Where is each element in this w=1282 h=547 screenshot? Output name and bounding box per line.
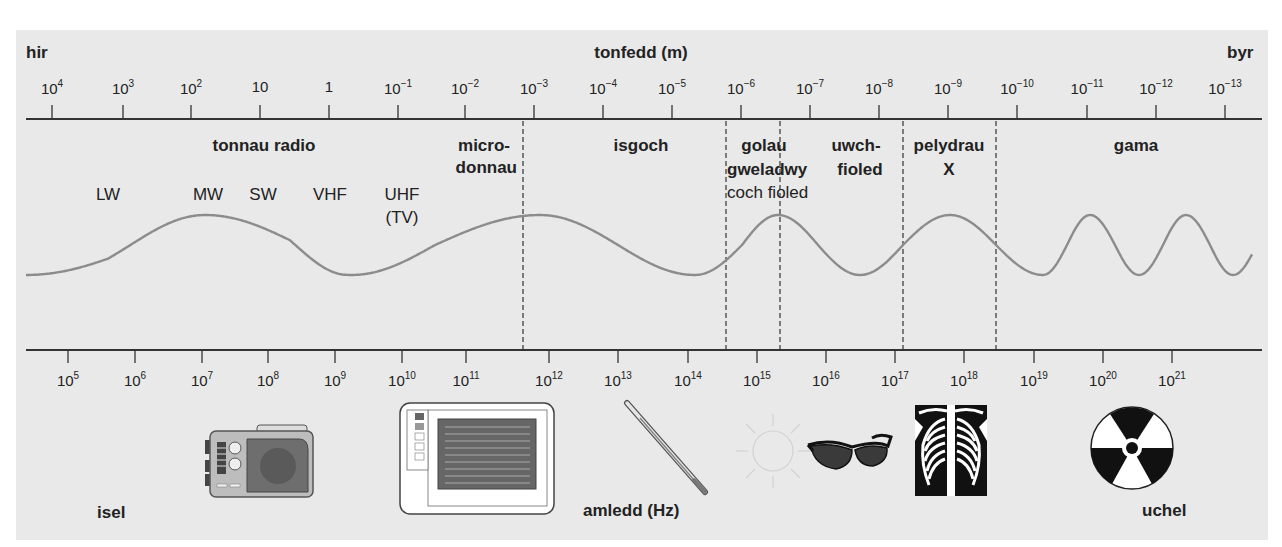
chest-x-ray-icon [915,405,987,496]
region-xray-line2: X [943,160,954,180]
radiation-symbol-icon [1091,407,1173,489]
visible-range-label: coch fioled [727,183,808,203]
frequency-tick-marks [68,350,1172,363]
wavelength-tick-marks [52,105,1225,119]
radio-icon [205,425,313,497]
microwave-oven-icon [400,403,554,514]
region-infrared-label: isgoch [614,136,669,156]
sun-icon [736,414,810,488]
band-uhf-tv: (TV) [385,208,418,228]
em-wave [26,215,1252,275]
band-sw: SW [249,185,276,205]
spectrum-graphics [0,0,1282,547]
frequency-low-label: isel [97,503,125,523]
microwave-line1: micro- [451,136,517,156]
region-xray-line1: pelydrau [914,136,985,156]
microwave-line2: donnau [451,158,517,178]
frequency-axis-title: amledd (Hz) [583,501,679,521]
frequency-high-label: uchel [1142,501,1186,521]
band-uhf: UHF [385,185,420,205]
thermometer-icon [627,403,705,492]
region-ultraviolet-line1: uwch- [831,136,880,156]
region-microwave-label: micro- donnau [451,136,517,178]
region-visible-line1: golau [741,136,786,156]
region-ultraviolet-line2: fioled [837,160,882,180]
band-mw: MW [193,185,223,205]
region-visible-line2: gweladwy [727,160,807,180]
region-radio-label: tonnau radio [213,136,316,156]
sunglasses-icon [808,435,891,469]
band-vhf: VHF [313,185,347,205]
region-gamma-label: gama [1114,136,1158,156]
band-lw: LW [96,185,120,205]
